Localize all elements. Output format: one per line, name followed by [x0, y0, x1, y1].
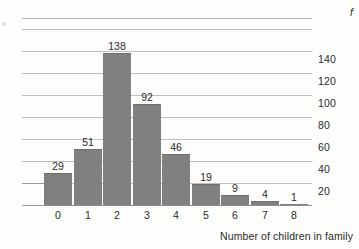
y-axis-label: f — [350, 6, 353, 18]
bar-value-label: 46 — [162, 141, 190, 153]
x-axis-tick-label: 0 — [44, 209, 72, 221]
y-axis-tick-label: 60 — [318, 141, 330, 153]
histogram-figure: f Number of children in family 204060801… — [0, 0, 359, 249]
bar-value-label: 4 — [251, 188, 279, 200]
y-axis-tick-label: 120 — [318, 75, 336, 87]
x-axis-tick-label: 8 — [280, 209, 308, 221]
x-axis-tick-label: 6 — [221, 209, 249, 221]
x-axis-tick-label: 3 — [133, 209, 161, 221]
y-axis-tick-label: 20 — [318, 185, 330, 197]
x-axis-tick-label: 1 — [74, 209, 102, 221]
y-axis-tick-label: 100 — [318, 97, 336, 109]
x-axis-tick-label: 5 — [192, 209, 220, 221]
labels-group: f Number of children in family 204060801… — [0, 0, 359, 249]
x-axis-title: Number of children in family — [220, 230, 353, 242]
bar-value-label: 92 — [133, 91, 161, 103]
y-axis-tick-label: 40 — [318, 163, 330, 175]
bar-value-label: 29 — [44, 160, 72, 172]
x-axis-tick-label: 4 — [162, 209, 190, 221]
x-axis-tick-label: 2 — [103, 209, 131, 221]
bar-value-label: 51 — [74, 136, 102, 148]
bar-value-label: 1 — [280, 191, 308, 203]
x-axis-tick-label: 7 — [251, 209, 279, 221]
y-axis-tick-label: 140 — [318, 53, 336, 65]
bar-value-label: 9 — [221, 182, 249, 194]
bar-value-label: 19 — [192, 171, 220, 183]
bar-value-label: 138 — [103, 40, 131, 52]
y-axis-tick-label: 80 — [318, 119, 330, 131]
